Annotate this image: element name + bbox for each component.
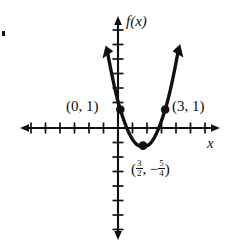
- vertex-y-numerator: 5: [158, 159, 165, 168]
- x-axis-left-arrowhead: [20, 124, 29, 132]
- vertex-comma: ,: [143, 161, 147, 177]
- point-label-left: (0, 1): [66, 99, 99, 114]
- vertex-y-fraction: 54: [158, 159, 165, 179]
- vertex-x-denominator: 2: [136, 168, 143, 178]
- vertex-y-denominator: 4: [158, 168, 165, 178]
- vertex-x-numerator: 3: [136, 159, 143, 168]
- x-axis-right-arrowhead: [211, 124, 220, 132]
- x-axis-label: x: [207, 136, 214, 151]
- coordinate-plane: [0, 0, 239, 240]
- vertex-minus-sign: −: [150, 161, 158, 177]
- vertex-close-paren: ): [165, 161, 170, 177]
- y-axis-bottom-arrowhead: [114, 231, 122, 240]
- point-marker-0-1: [116, 105, 125, 114]
- y-axis-top-arrowhead: [114, 16, 122, 25]
- vertex-x-fraction: 32: [136, 159, 143, 179]
- y-axis-label: f(x): [126, 14, 147, 29]
- point-marker-vertex: [139, 141, 148, 150]
- graph-figure: f(x) x (0, 1) (3, 1) (32, −54): [0, 0, 239, 240]
- vertex-label: (32, −54): [131, 160, 170, 180]
- point-marker-3-1: [161, 105, 170, 114]
- point-label-right: (3, 1): [172, 99, 205, 114]
